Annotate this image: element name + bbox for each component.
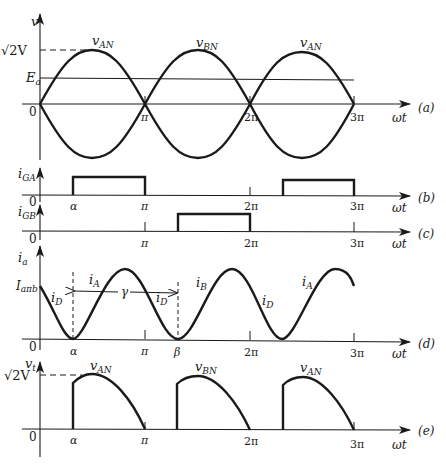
vBN-curve-1 [145,50,250,104]
vAN-curve-2 [250,52,354,104]
x-label-omega-t-e: ωt [392,438,407,452]
tick-label-beta-d: β [173,346,180,359]
x-label-omega-t-d: ωt [392,347,407,361]
panel-tag-c: (c) [418,227,434,241]
vAN-curve-1 [40,50,145,104]
y-tick-peak-a: √2V [1,43,28,58]
tick-label-2pi-c: 2π [244,237,258,250]
vAN-negative-1 [145,104,250,158]
panel-d: ia Iaπb 0 γ iD iA iD iB iD iA α π β 2π 3… [15,250,435,361]
panel-tag-d: (d) [418,337,435,351]
curve-label-vAN-e1: vAN [90,358,113,375]
gamma-arrow-right [130,292,177,293]
panel-a: v √2V Ea 0 vAN vBN vAN π 2π 3π ωt (a) [1,14,435,158]
x-axis-c [22,231,410,232]
gamma-label: γ [121,285,129,299]
y-label-ia: ia [18,250,28,267]
tick-label-alpha-b: α [70,200,78,213]
y-tick-current-level: Iaπb [15,279,38,294]
panel-b: iGA 0 α π 2π 3π ωt (b) [18,166,435,215]
tick-label-2pi-b: 2π [244,200,258,213]
output-voltage-pulse-2 [177,376,250,430]
y-tick-zero-e: 0 [29,430,37,444]
tick-label-pi-d: π [140,345,149,358]
curve-label-vAN-1: vAN [92,33,115,50]
tick-label-2pi-a: 2π [244,111,258,124]
segment-label-iD-1: iD [51,290,62,307]
vBN-negative-2 [250,104,354,158]
panel-tag-e: (e) [418,424,435,438]
segment-label-iA-2: iA [302,274,313,291]
curve-label-vAN-2: vAN [300,35,323,52]
gamma-arrow-left [74,291,118,292]
x-label-omega-t-b: ωt [392,201,407,215]
x-axis-e [22,429,410,430]
y-tick-zero-b: 0 [29,195,37,209]
segment-label-iB: iB [196,275,207,292]
tick-label-pi-a: π [140,111,149,124]
tick-label-2pi-e: 2π [244,435,258,448]
gate-pulse-gb-1 [178,214,250,231]
tick-label-3pi-b: 3π [350,200,364,213]
y-tick-zero-c: 0 [29,232,37,246]
y-tick-ea: Ea [25,70,41,87]
tick-label-alpha-e: α [70,434,78,447]
y-tick-zero-d: 0 [29,340,37,354]
y-tick-peak-e: √2V [4,368,31,383]
curve-label-vBN: vBN [196,35,219,52]
x-axis-d [22,339,410,342]
x-label-omega-t-a: ωt [392,111,407,125]
y-label-v: v [31,14,39,29]
gate-pulse-ga-2 [283,180,354,196]
ea-level-line [40,78,354,80]
curve-label-vAN-e2: vAN [300,360,323,377]
tick-label-3pi-e: 3π [350,438,364,451]
panel-e: vt √2V 0 vAN vBN vAN α π 2π 3π ωt (e) [4,356,435,452]
tick-label-pi-b: π [140,200,149,213]
segment-label-iA-1: iA [89,272,100,289]
output-voltage-pulse-3 [283,377,354,430]
panel-c: iGB 0 π 2π 3π ωt (c) [18,204,434,251]
tick-label-2pi-d: 2π [244,346,258,359]
output-voltage-pulse-1 [73,374,145,429]
x-label-omega-t-c: ωt [392,237,407,251]
tick-label-3pi-c: 3π [350,237,364,250]
panel-tag-b: (b) [418,191,435,205]
tick-label-alpha-d: α [70,345,78,358]
tick-label-pi-e: π [140,434,149,447]
segment-label-iD-3: iD [262,293,273,310]
curve-label-vBN-e: vBN [195,359,218,376]
tick-label-3pi-d: 3π [350,347,364,360]
gate-pulse-ga-1 [73,177,145,195]
waveform-figure: v √2V Ea 0 vAN vBN vAN π 2π 3π ωt (a) iG… [0,0,446,467]
tick-label-3pi-a: 3π [350,111,364,124]
vBN-negative-1 [40,104,145,158]
x-axis-b [22,195,410,196]
panel-tag-a: (a) [418,101,435,115]
y-label-iGA: iGA [18,166,36,183]
y-tick-zero-a: 0 [29,105,37,119]
tick-label-pi-c: π [140,237,149,250]
